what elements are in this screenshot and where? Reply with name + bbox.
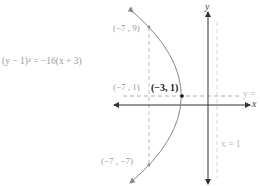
focus-label: (−7 , 1) [113, 83, 140, 92]
directrix-label: x = 1 [221, 140, 241, 150]
y-axis-label: y [205, 2, 209, 12]
point-top [148, 26, 151, 29]
vertex-point [180, 94, 184, 98]
point-bottom [148, 164, 151, 167]
point-bottom-label: (−7 , −7) [101, 157, 133, 166]
vertex-label: (−3, 1) [151, 83, 178, 93]
x-axis-label: x [252, 99, 256, 109]
axis-of-symmetry-label: y = [243, 90, 255, 100]
equation-label: (y − 1)² = −16(x + 3) [2, 57, 82, 67]
parabola-curve [130, 12, 181, 183]
point-top-label: (−7 , 9) [113, 24, 140, 33]
